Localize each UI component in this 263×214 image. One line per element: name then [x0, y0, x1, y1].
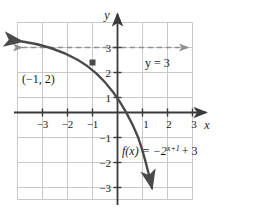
x-tick-label: 3	[191, 118, 197, 130]
asymptote-label: y = 3	[145, 56, 170, 70]
function-label: f(x) = −2x+1+ 3	[122, 144, 198, 158]
y-tick-label: −2	[99, 157, 111, 169]
x-tick-label: 2	[166, 118, 172, 130]
function-label-prefix: f(x) = −2	[122, 144, 167, 158]
x-tick-label: −2	[62, 118, 74, 130]
y-axis-label: y	[103, 8, 110, 22]
function-label-suffix: + 3	[182, 144, 198, 158]
graph-figure: −3 −2 −1 1 2 3 3 2 1 −1 −2 −3 y x (−1, 2…	[0, 0, 263, 214]
function-curve	[22, 42, 152, 189]
x-axis-label: x	[203, 118, 210, 132]
y-tick-label: 3	[106, 42, 112, 54]
x-tick-label: −3	[37, 118, 49, 130]
y-tick-label: 2	[106, 67, 112, 79]
y-tick-label: 1	[106, 92, 112, 104]
y-tick-label: −1	[99, 132, 111, 144]
point-marker	[90, 60, 96, 66]
x-tick-label: −1	[87, 118, 99, 130]
function-label-exponent: x+1	[166, 144, 180, 153]
x-tick-label: 1	[143, 118, 149, 130]
y-tick-labels: 3 2 1 −1 −2 −3	[99, 42, 111, 194]
point-label: (−1, 2)	[22, 72, 55, 86]
y-tick-label: −3	[99, 182, 111, 194]
